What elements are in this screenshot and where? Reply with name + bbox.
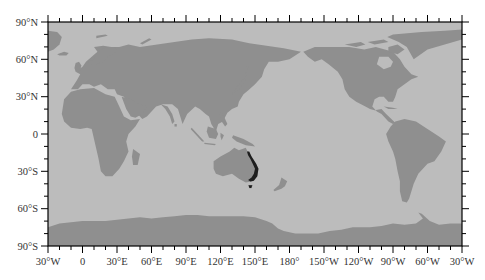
x-tick-label: 150°W bbox=[309, 256, 339, 267]
x-tick-label: 30°E bbox=[106, 256, 127, 267]
y-tick-label: 60°S bbox=[17, 203, 38, 214]
y-tick-label: 30°S bbox=[17, 166, 38, 177]
x-tick-label: 60°W bbox=[415, 256, 440, 267]
x-tick-label: 60°E bbox=[141, 256, 162, 267]
x-tick-label: 90°E bbox=[175, 256, 196, 267]
x-tick-label: 90°W bbox=[381, 256, 406, 267]
y-tick-label: 0 bbox=[33, 129, 38, 140]
x-tick-label: 150°E bbox=[242, 256, 268, 267]
map-plot-area bbox=[48, 22, 462, 246]
y-axis-labels: 90°N 60°N 30°N 0 30°S 60°S 90°S bbox=[16, 17, 39, 252]
x-axis-labels: 30°W 0 30°E 60°E 90°E 120°E 150°E 180° 1… bbox=[36, 256, 475, 267]
x-tick-label: 30°W bbox=[36, 256, 61, 267]
x-tick-label: 120°E bbox=[207, 256, 233, 267]
x-tick-label: 180° bbox=[280, 256, 300, 267]
y-tick-label: 60°N bbox=[16, 54, 39, 65]
x-tick-label: 30°W bbox=[450, 256, 475, 267]
x-tick-label: 0 bbox=[80, 256, 85, 267]
y-tick-label: 90°S bbox=[17, 241, 38, 252]
sri-lanka bbox=[175, 124, 177, 126]
world-map-figure: 90°N 60°N 30°N 0 30°S 60°S 90°S 30°W 0 3… bbox=[0, 0, 485, 280]
x-tick-label: 120°W bbox=[344, 256, 374, 267]
y-tick-label: 30°N bbox=[16, 91, 39, 102]
y-tick-label: 90°N bbox=[16, 17, 39, 28]
